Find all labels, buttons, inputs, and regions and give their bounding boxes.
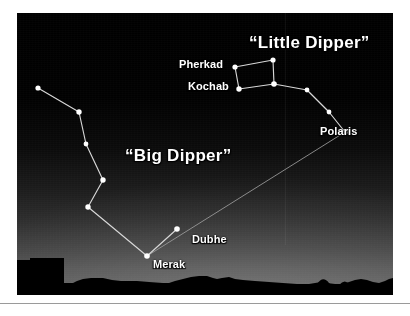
bottom-divider-rule (0, 303, 410, 304)
big-dipper-lines (38, 88, 177, 256)
sky-photograph: “Little Dipper” “Big Dipper” Pherkad Koc… (17, 13, 393, 295)
label-star-merak: Merak (153, 259, 185, 270)
star-pherkad (232, 64, 237, 69)
label-little-dipper: “Little Dipper” (249, 34, 370, 51)
star-point (327, 110, 332, 115)
big-dipper-stars (35, 85, 179, 258)
little-dipper-lines (235, 60, 345, 132)
star-dubhe (174, 226, 180, 232)
star-kochab (236, 86, 241, 91)
label-star-kochab: Kochab (188, 81, 229, 92)
star-point (270, 57, 275, 62)
horizon-silhouette (17, 258, 393, 295)
label-star-pherkad: Pherkad (179, 59, 223, 70)
star-point (76, 109, 81, 114)
label-big-dipper: “Big Dipper” (125, 147, 232, 164)
star-point (305, 88, 310, 93)
label-star-polaris: Polaris (320, 126, 357, 137)
star-point (85, 204, 90, 209)
star-point (35, 85, 40, 90)
star-merak (144, 253, 150, 259)
star-point (84, 142, 89, 147)
star-point (271, 81, 277, 87)
little-dipper-stars (232, 57, 347, 134)
label-star-dubhe: Dubhe (192, 234, 227, 245)
page-canvas: “Little Dipper” “Big Dipper” Pherkad Koc… (0, 0, 410, 316)
star-point (100, 177, 105, 182)
